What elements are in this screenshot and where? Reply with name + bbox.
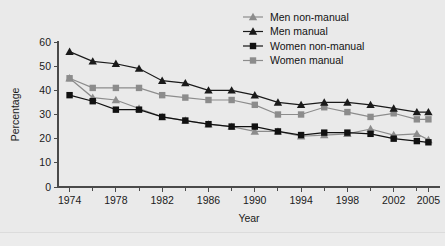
data-point-marker xyxy=(390,135,396,141)
data-point-marker xyxy=(413,130,421,137)
y-tick-label: 60 xyxy=(39,36,51,48)
data-point-marker xyxy=(275,111,281,117)
data-point-marker xyxy=(158,76,166,83)
data-point-marker xyxy=(414,116,420,122)
x-tick-label: 1994 xyxy=(289,194,313,206)
data-point-marker xyxy=(89,57,97,64)
series-line xyxy=(70,78,429,119)
data-point-marker xyxy=(205,97,211,103)
x-tick-label: 1986 xyxy=(197,194,221,206)
data-point-marker xyxy=(367,114,373,120)
series-women-non-manual xyxy=(66,92,431,146)
data-point-marker xyxy=(298,132,304,138)
data-point-marker xyxy=(425,116,431,122)
data-point-marker xyxy=(228,123,234,129)
y-tick-label: 30 xyxy=(39,108,51,120)
y-tick-label: 20 xyxy=(39,132,51,144)
data-point-marker xyxy=(205,121,211,127)
data-point-marker xyxy=(344,109,350,115)
data-point-marker xyxy=(65,47,73,54)
legend-label: Men manual xyxy=(270,25,328,37)
x-tick-label: 1978 xyxy=(104,194,128,206)
legend-label: Women manual xyxy=(270,54,343,66)
data-point-marker xyxy=(66,75,72,81)
x-tick-label: 1990 xyxy=(243,194,267,206)
legend-item-women-non-manual[interactable]: Women non-manual xyxy=(243,40,364,52)
data-point-marker xyxy=(414,138,420,144)
x-tick-label: 1974 xyxy=(58,194,82,206)
y-tick-label: 10 xyxy=(39,156,51,168)
legend-item-men-non-manual[interactable]: Men non-manual xyxy=(243,11,349,23)
data-point-marker xyxy=(367,131,373,137)
data-point-marker xyxy=(252,123,258,129)
data-point-marker xyxy=(90,85,96,91)
legend-marker xyxy=(250,43,256,49)
series-men-non-manual xyxy=(65,74,432,143)
x-tick-label: 2005 xyxy=(417,194,441,206)
data-point-marker xyxy=(425,139,431,145)
figure-bottom-edge xyxy=(0,232,445,246)
data-point-marker xyxy=(136,106,142,112)
data-point-marker xyxy=(321,129,327,135)
data-point-marker xyxy=(159,92,165,98)
legend-marker xyxy=(250,57,256,63)
x-tick-label: 1998 xyxy=(336,194,360,206)
series-women-manual xyxy=(66,75,431,122)
x-tick-label: 2002 xyxy=(382,194,406,206)
data-point-marker xyxy=(113,85,119,91)
data-point-marker xyxy=(66,92,72,98)
x-tick-label: 1982 xyxy=(151,194,175,206)
data-point-marker xyxy=(113,106,119,112)
y-tick-label: 0 xyxy=(45,181,51,193)
data-point-marker xyxy=(159,114,165,120)
data-point-marker xyxy=(90,98,96,104)
y-axis-title: Percentage xyxy=(9,87,21,141)
legend-item-women-manual[interactable]: Women manual xyxy=(243,54,343,66)
data-point-marker xyxy=(182,94,188,100)
y-tick-label: 40 xyxy=(39,84,51,96)
data-point-marker xyxy=(344,129,350,135)
legend-label: Women non-manual xyxy=(270,40,364,52)
data-point-marker xyxy=(298,111,304,117)
x-axis-title: Year xyxy=(238,212,260,224)
legend-label: Men non-manual xyxy=(270,11,349,23)
data-point-marker xyxy=(228,97,234,103)
data-point-marker xyxy=(275,128,281,134)
data-point-marker xyxy=(182,117,188,123)
legend-item-men-manual[interactable]: Men manual xyxy=(243,25,328,37)
data-point-marker xyxy=(252,102,258,108)
series-men-manual xyxy=(65,47,432,115)
y-tick-label: 50 xyxy=(39,60,51,72)
data-point-marker xyxy=(136,85,142,91)
